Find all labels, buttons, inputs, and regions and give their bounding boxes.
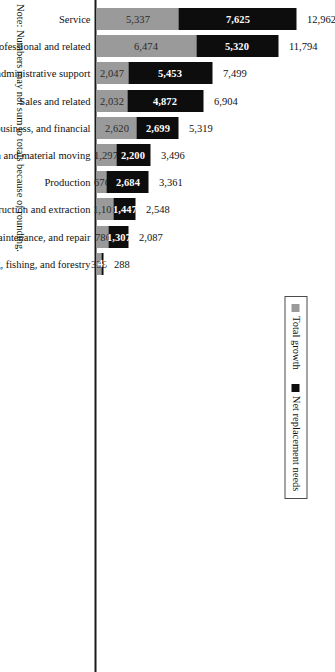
category-tick-label-text: Office and administrative support — [0, 68, 90, 79]
chart-legend: Total growth Net replacement needs — [284, 296, 307, 499]
bar-value-label-net-replacement-needs: 5,320 — [225, 41, 249, 52]
bar-group: 5,3377,62512,962 — [96, 8, 296, 30]
category-tick-label-text: Construction and extraction — [0, 204, 90, 215]
category-tick-label-text: Management, business, and financial — [0, 122, 90, 133]
category-tick-label: Construction and extraction — [90, 209, 207, 220]
category-tick-label-text: Transportation and material moving — [0, 150, 90, 161]
bar-value-label-net-replacement-needs: 7,625 — [225, 14, 249, 25]
legend-item-total-growth: Total growth — [290, 304, 301, 370]
bar-value-label-total-growth: 5,337 — [125, 14, 149, 25]
chart-note: Note: Numbers may not sum to totals beca… — [14, 4, 25, 252]
category-tick-label-text: Service — [59, 14, 91, 25]
category-tick-label: Professional and related — [90, 46, 191, 57]
category-tick-label: Sales and related — [90, 101, 161, 112]
category-tick-label: Installation, maintenance, and repair — [90, 237, 243, 248]
bar-total-label: 6,904 — [213, 95, 237, 106]
bar-segment-net-replacement-needs: 5,320 — [196, 35, 278, 57]
category-tick-label: Management, business, and financial — [90, 128, 245, 139]
category-tick-label-text: Production — [44, 177, 90, 188]
bar-segment-net-replacement-needs: 7,625 — [178, 8, 296, 30]
legend-label-total-growth: Total growth — [290, 316, 301, 370]
category-tick-label-text: Professional and related — [0, 41, 90, 52]
category-tick-label: Farming, fishing, and forestry — [90, 264, 216, 275]
legend-swatch-total-growth — [292, 304, 300, 312]
category-tick-label: Office and administrative support — [90, 73, 231, 84]
bar-total-label: 12,962 — [306, 14, 335, 25]
category-tick-label: Transportation and material moving — [90, 155, 241, 166]
category-tick-label: Service — [90, 19, 122, 30]
category-tick-label-text: Sales and related — [19, 95, 90, 106]
bar-total-label: 11,794 — [288, 41, 317, 52]
category-tick-label-text: Installation, maintenance, and repair — [0, 231, 90, 242]
category-tick-label: Production — [90, 182, 136, 193]
legend-swatch-net-replacement-needs — [292, 384, 300, 392]
legend-label-net-replacement-needs: Net replacement needs — [290, 396, 301, 492]
category-tick-label-text: Farming, fishing, and forestry — [0, 258, 90, 269]
bar-total-label: 3,361 — [158, 177, 182, 188]
legend-item-net-replacement-needs: Net replacement needs — [290, 384, 301, 492]
